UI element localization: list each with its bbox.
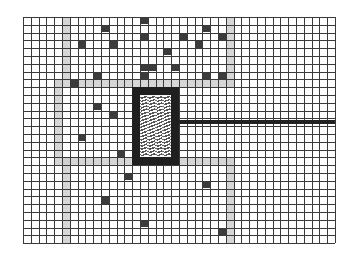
grid-line-horizontal: [23, 17, 335, 18]
obstacle-block[interactable]: [219, 73, 227, 79]
obstacle-block[interactable]: [141, 73, 149, 79]
obstacle-block[interactable]: [219, 229, 227, 235]
grid-line-horizontal: [23, 150, 335, 151]
grid-line-horizontal: [23, 118, 335, 119]
grid-line-horizontal: [23, 111, 335, 112]
grid-line-vertical: [335, 17, 336, 243]
grid-line-vertical: [210, 17, 211, 243]
grid-line-vertical: [241, 17, 242, 243]
grid-line-vertical: [70, 17, 71, 243]
grid-line-horizontal: [23, 56, 335, 57]
grid-line-vertical: [109, 17, 110, 243]
grid-line-vertical: [23, 17, 24, 243]
grid-line-vertical: [202, 17, 203, 243]
exit-bar: [179, 120, 335, 125]
band-left-wall-bottom: [62, 157, 70, 243]
grid-line-vertical: [93, 17, 94, 243]
obstacle-block[interactable]: [172, 65, 180, 71]
grid-line-horizontal: [23, 173, 335, 174]
obstacle-block[interactable]: [102, 197, 110, 203]
obstacle-block[interactable]: [141, 18, 149, 24]
grid-line-vertical: [195, 17, 196, 243]
grid-line-horizontal: [23, 189, 335, 190]
obstacle-block[interactable]: [164, 49, 172, 55]
grid-line-horizontal: [23, 142, 335, 143]
grid-line-horizontal: [23, 40, 335, 41]
chamber-hatch-column: [141, 96, 147, 156]
grid-line-vertical: [39, 17, 40, 243]
obstacle-block[interactable]: [148, 65, 156, 71]
obstacle-block[interactable]: [141, 221, 149, 227]
obstacle-block[interactable]: [219, 34, 227, 40]
chamber-hatch-column: [164, 96, 170, 156]
grid-line-vertical: [234, 17, 235, 243]
obstacle-block[interactable]: [117, 151, 125, 157]
grid-line-horizontal: [23, 157, 335, 158]
obstacle-block[interactable]: [141, 65, 149, 71]
grid-line-vertical: [257, 17, 258, 243]
grid-line-horizontal: [23, 220, 335, 221]
grid-line-horizontal: [23, 103, 335, 104]
grid-line-vertical: [226, 17, 227, 243]
grid-line-vertical: [327, 17, 328, 243]
grid-line-vertical: [54, 17, 55, 243]
grid-line-horizontal: [23, 95, 335, 96]
grid-line-vertical: [312, 17, 313, 243]
obstacle-block[interactable]: [180, 34, 188, 40]
grid-line-vertical: [62, 17, 63, 243]
grid-line-horizontal: [23, 25, 335, 26]
grid-line-horizontal: [23, 126, 335, 127]
obstacle-block[interactable]: [125, 174, 133, 180]
obstacle-block[interactable]: [78, 135, 86, 141]
obstacle-block[interactable]: [109, 112, 117, 118]
grid-line-vertical: [187, 17, 188, 243]
grid-line-vertical: [288, 17, 289, 243]
grid-line-horizontal: [23, 212, 335, 213]
grid-line-horizontal: [23, 228, 335, 229]
grid-line-horizontal: [23, 165, 335, 166]
obstacle-block[interactable]: [203, 182, 211, 188]
obstacle-block[interactable]: [102, 26, 110, 32]
grid-line-horizontal: [23, 72, 335, 73]
grid-line-vertical: [46, 17, 47, 243]
grid-line-vertical: [304, 17, 305, 243]
grid-line-vertical: [31, 17, 32, 243]
grid-line-horizontal: [23, 196, 335, 197]
grid-line-vertical: [319, 17, 320, 243]
grid-line-horizontal: [23, 235, 335, 236]
grid-line-horizontal: [23, 243, 335, 244]
grid-line-vertical: [296, 17, 297, 243]
grid-line-horizontal: [23, 48, 335, 49]
obstacle-block[interactable]: [109, 41, 117, 47]
grid-line-vertical: [124, 17, 125, 243]
grid-line-vertical: [117, 17, 118, 243]
grid-line-vertical: [85, 17, 86, 243]
obstacle-block[interactable]: [94, 73, 102, 79]
grid-line-horizontal: [23, 181, 335, 182]
obstacle-block[interactable]: [94, 104, 102, 110]
chamber-hatch-column: [157, 96, 163, 156]
grid-board: [23, 17, 335, 243]
grid-line-horizontal: [23, 134, 335, 135]
grid-line-vertical: [249, 17, 250, 243]
grid-line-vertical: [78, 17, 79, 243]
grid-line-vertical: [280, 17, 281, 243]
chamber-hatch-column: [149, 96, 155, 156]
grid-line-horizontal: [23, 87, 335, 88]
obstacle-block[interactable]: [203, 73, 211, 79]
grid-line-vertical: [101, 17, 102, 243]
obstacle-block[interactable]: [78, 41, 86, 47]
obstacle-block[interactable]: [203, 26, 211, 32]
grid-line-vertical: [265, 17, 266, 243]
grid-line-vertical: [218, 17, 219, 243]
grid-line-horizontal: [23, 204, 335, 205]
grid-line-vertical: [179, 17, 180, 243]
obstacle-block[interactable]: [195, 41, 203, 47]
obstacle-block[interactable]: [70, 80, 78, 86]
obstacle-block[interactable]: [141, 34, 149, 40]
grid-line-vertical: [273, 17, 274, 243]
